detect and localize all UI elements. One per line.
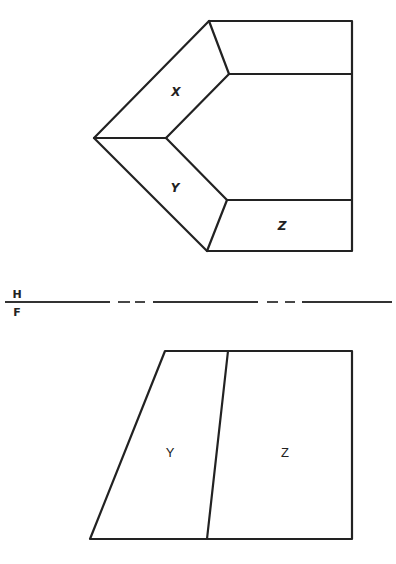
front-edge-yz-divider xyxy=(207,351,228,539)
plane-label-f: F xyxy=(13,306,21,319)
top-face-label-y: Y xyxy=(171,181,181,195)
projection-diagram: X Y Z H F Y Z xyxy=(0,0,396,564)
top-edge-x-inner-diagonal xyxy=(166,74,229,138)
front-face-label-y: Y xyxy=(166,445,175,460)
top-edge-x-outer-inner xyxy=(209,21,229,74)
reference-line: H F xyxy=(5,288,392,319)
front-face-label-z: Z xyxy=(281,445,289,460)
top-face-label-x: X xyxy=(170,85,181,99)
plane-label-h: H xyxy=(12,288,21,301)
top-face-label-z: Z xyxy=(277,219,287,233)
front-view: Y Z xyxy=(90,351,352,539)
front-view-outline xyxy=(90,351,352,539)
top-view: X Y Z xyxy=(94,21,352,251)
top-edge-yz-divider xyxy=(207,200,227,251)
